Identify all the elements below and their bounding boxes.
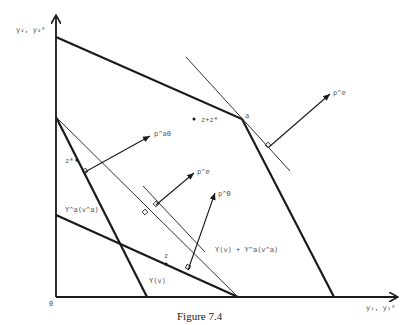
- sum-set-label: Y(v) + Y^a(v^a): [215, 246, 278, 254]
- y-axis-label: y₂, y₂⁰: [16, 26, 46, 34]
- sum-set-boundary: [56, 37, 334, 297]
- point-z-plus-zstar: [193, 118, 196, 121]
- z-star-label: z*: [65, 157, 73, 165]
- figure-caption: Figure 7.4: [177, 310, 223, 322]
- p-0-label: p^0: [218, 190, 231, 198]
- tangent-line-a: [186, 57, 290, 171]
- z-label: z: [164, 252, 168, 260]
- arrow-p-a0: [85, 136, 150, 172]
- Y-set-label: Y(v): [149, 277, 166, 285]
- right-angle-mark: [142, 209, 148, 215]
- x-axis-label: y₁, y₁⁰: [366, 304, 396, 312]
- point-z-star: [75, 158, 78, 161]
- z-plus-zstar-label: z+z*: [201, 116, 218, 124]
- p-e-middle-label: p^e: [197, 168, 210, 176]
- Y-set-boundary: [56, 215, 238, 297]
- Ya-set-label: Y^a(v^a): [65, 206, 99, 214]
- p-e-upper-label: p^e: [333, 89, 346, 97]
- figure-diagram: y₂, y₂⁰ y₁, y₁⁰ 0 a z+z* z* z p^e p^a0 p…: [0, 0, 418, 325]
- arrow-p-0: [188, 193, 215, 270]
- p-a0-label: p^a0: [154, 130, 171, 138]
- vertex-a-label: a: [245, 112, 249, 120]
- arrow-p-e-upper: [269, 94, 330, 147]
- arrow-p-e-middle: [156, 173, 194, 205]
- point-z: [164, 262, 167, 265]
- origin-label: 0: [49, 300, 53, 308]
- tangent-line-middle: [143, 186, 205, 252]
